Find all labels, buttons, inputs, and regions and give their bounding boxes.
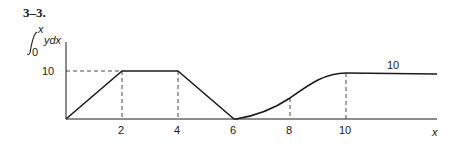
- curve-annotation: 10: [387, 59, 399, 71]
- x-tick-8: 8: [286, 124, 292, 136]
- integrand: ydx: [43, 34, 62, 46]
- integral-plot: x 0 ydx 10 2 4 6 8 10 x 10: [0, 0, 462, 144]
- y-axis-label: x 0 ydx: [27, 23, 62, 58]
- x-tick-10: 10: [339, 124, 351, 136]
- integral-upper-limit: x: [37, 23, 44, 35]
- x-tick-4: 4: [174, 124, 180, 136]
- x-tick-6: 6: [230, 124, 236, 136]
- integral-lower-limit: 0: [32, 46, 38, 58]
- x-tick-2: 2: [118, 124, 124, 136]
- y-tick-10: 10: [42, 65, 54, 77]
- x-axis-label: x: [431, 126, 438, 138]
